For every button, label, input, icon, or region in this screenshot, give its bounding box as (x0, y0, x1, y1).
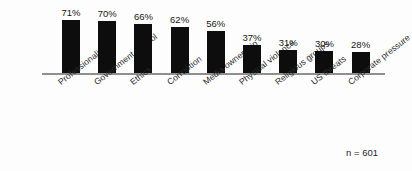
bar-value-label: 30% (307, 38, 341, 49)
bar-value-label: 56% (199, 18, 233, 29)
bar-value-label: 28% (344, 39, 378, 50)
bar-value-label: 62% (163, 14, 197, 25)
sample-size-annotation: n = 601 (346, 147, 378, 158)
x-axis-category-label: Ethics (128, 64, 153, 87)
bar-value-label: 70% (90, 8, 124, 19)
bar-value-label: 71% (54, 7, 88, 18)
bar-value-label: 37% (235, 32, 269, 43)
bar-value-label: 66% (126, 11, 160, 22)
bar-value-label: 31% (271, 37, 305, 48)
